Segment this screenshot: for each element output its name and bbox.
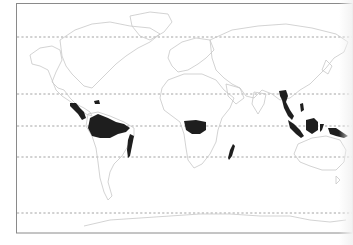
map-frame (17, 4, 353, 234)
world-map (0, 0, 353, 245)
map-canvas (0, 0, 353, 245)
page-edge-shadow (339, 0, 353, 245)
